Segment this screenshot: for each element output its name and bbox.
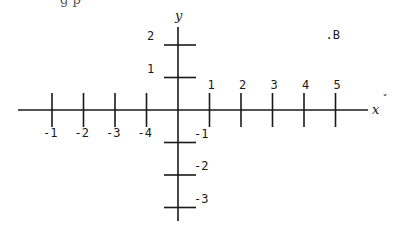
coordinate-plane: g p y x ˇ 12345-4-3-2-121-1-2-3 .B bbox=[0, 0, 399, 226]
x-tick-label: -4 bbox=[138, 126, 152, 140]
y-tick-label: 2 bbox=[147, 29, 154, 43]
x-tick-label: 5 bbox=[334, 78, 341, 92]
y-tick-label: -1 bbox=[194, 127, 208, 141]
x-tick-label: 4 bbox=[302, 78, 309, 92]
x-axis-name-mark: ˇ bbox=[382, 94, 388, 105]
x-tick-label: -2 bbox=[75, 126, 89, 140]
x-tick-label: 1 bbox=[208, 78, 215, 92]
x-tick-label: 3 bbox=[271, 78, 278, 92]
y-tick-label: 1 bbox=[147, 62, 154, 76]
y-tick-label: -2 bbox=[194, 159, 208, 173]
x-tick-label: -3 bbox=[106, 126, 120, 140]
x-axis-name: x bbox=[372, 102, 380, 117]
point-b: .B bbox=[326, 28, 340, 42]
x-tick-label: 2 bbox=[239, 78, 246, 92]
y-tick-label: -3 bbox=[194, 192, 208, 206]
y-axis-name: y bbox=[174, 8, 183, 23]
cropped-header-text: g p bbox=[60, 0, 81, 7]
x-tick-label: -1 bbox=[43, 126, 57, 140]
